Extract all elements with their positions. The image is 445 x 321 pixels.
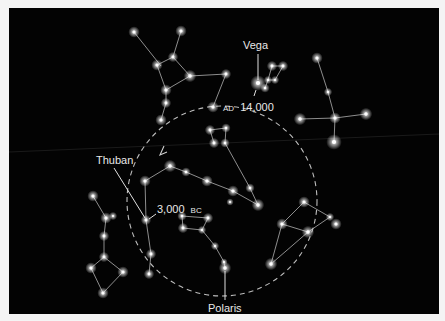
star-icon <box>121 270 124 273</box>
star-icon <box>224 142 227 145</box>
ad-year: 14,000 <box>240 101 274 113</box>
star-icon <box>89 266 92 269</box>
star-icon <box>104 216 107 219</box>
star-icon <box>306 230 309 233</box>
constellation-line <box>271 232 308 264</box>
star-icon <box>182 227 185 230</box>
star-icon <box>213 142 216 145</box>
star-icon <box>132 30 135 33</box>
star-icon <box>181 215 184 218</box>
star-icon <box>188 74 191 77</box>
star-icon <box>159 118 162 121</box>
star-icon <box>298 117 301 120</box>
star-icon <box>214 245 216 247</box>
star-icon <box>145 219 148 222</box>
star-icon <box>274 79 276 81</box>
star-icon <box>333 116 336 119</box>
star-icon <box>209 129 212 132</box>
star-icon <box>150 253 153 256</box>
star-icon <box>148 273 151 276</box>
bc-era: BC <box>191 206 202 215</box>
star-icon <box>282 65 285 68</box>
bc-3000-label: 3,000 BC <box>157 203 202 215</box>
bc-year: 3,000 <box>157 203 185 215</box>
star-icon <box>205 179 208 182</box>
star-icon <box>143 179 146 182</box>
vega-label: Vega <box>243 39 269 51</box>
thuban-pointer <box>114 168 145 218</box>
star-icon <box>280 222 283 225</box>
ad14000-pointer <box>254 90 256 96</box>
direction-arrow-icon <box>160 146 167 155</box>
star-icon <box>225 127 228 130</box>
star-icon <box>223 266 226 269</box>
star-icon <box>267 79 269 81</box>
star-icon <box>269 262 272 265</box>
star-icon <box>185 171 188 174</box>
star-icon <box>172 56 175 59</box>
thuban-label: Thuban <box>96 154 133 166</box>
star-icon <box>364 112 367 115</box>
star-icon <box>302 200 305 203</box>
star-icon <box>264 87 267 90</box>
star-icon <box>229 201 231 203</box>
star-icon <box>112 215 114 217</box>
star-icon <box>164 88 167 91</box>
star-icon <box>168 164 171 167</box>
star-icon <box>207 217 210 220</box>
star-icon <box>231 189 234 192</box>
star-icon <box>201 229 203 231</box>
ad-14000-label: AD 14,000 <box>223 101 274 113</box>
star-icon <box>249 187 252 190</box>
star-icon <box>155 63 158 66</box>
star-icon <box>334 222 337 225</box>
star-icon <box>101 291 104 294</box>
label-pointers <box>114 54 258 300</box>
star-icon <box>327 91 329 93</box>
constellation-line <box>145 181 146 220</box>
star-icon <box>256 81 260 85</box>
star-icon <box>225 73 228 76</box>
star-icon <box>91 194 94 197</box>
star-icon <box>103 256 106 259</box>
star-icon <box>329 216 331 218</box>
ad-era: AD <box>223 104 234 113</box>
star-icon <box>256 203 259 206</box>
star-icon <box>165 102 168 105</box>
polaris-label: Polaris <box>208 302 242 314</box>
constellation-line <box>225 143 250 188</box>
star-icon <box>103 235 106 238</box>
star-icon <box>332 140 336 144</box>
star-icon <box>271 65 274 68</box>
star-icon <box>179 29 182 32</box>
star-icon <box>315 56 318 59</box>
precession-diagram: Vega AD 14,000 Thuban 3,000 BC Polaris <box>0 0 445 321</box>
star-icon <box>211 105 214 108</box>
